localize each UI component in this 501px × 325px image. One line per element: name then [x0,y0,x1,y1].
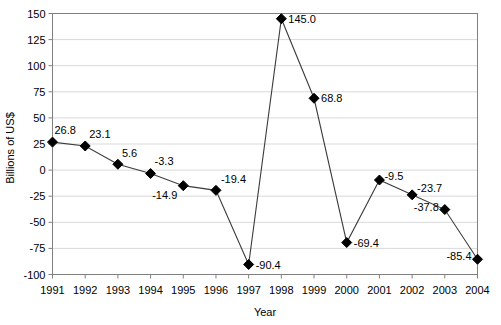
data-point-label: 145.0 [288,13,316,25]
data-point-marker [342,238,352,248]
data-point-marker [80,141,90,151]
y-tick-label: -25 [30,190,46,202]
data-point-marker [473,254,483,264]
y-tick-label: 25 [33,138,45,150]
x-tick-label: 2000 [334,284,358,296]
data-point-marker [244,259,254,269]
x-tick-label: 2001 [367,284,391,296]
data-point-label: -90.4 [256,259,281,271]
y-tick-label: 100 [27,60,45,72]
data-point-label: 68.8 [321,92,342,104]
data-point-label: -3.3 [155,155,174,167]
data-point-label: 5.6 [122,147,137,159]
y-axis-tick-labels: 1501251007550250-25-50-75-100 [23,8,45,281]
data-line [53,19,478,265]
data-point-label: -85.4 [446,250,471,262]
y-tick-label: 150 [27,8,45,20]
data-point-marker [211,185,221,195]
y-axis-title: Billions of US$ [4,112,16,184]
data-point-label: -69.4 [354,237,379,249]
data-point-label: 26.8 [55,124,76,136]
data-point-label: -37.8 [414,201,439,213]
x-tick-label: 1993 [106,284,130,296]
x-tick-label: 2004 [465,284,489,296]
data-point-marker [276,14,286,24]
x-tick-label: 1994 [138,284,162,296]
x-axis-ticks [53,275,478,279]
x-tick-label: 2002 [400,284,424,296]
data-point-label: 23.1 [89,128,110,140]
x-axis-title: Year [254,306,277,318]
y-tick-label: 0 [39,164,45,176]
y-tick-label: 50 [33,112,45,124]
x-tick-label: 1995 [171,284,195,296]
y-tick-label: 125 [27,34,45,46]
data-point-marker [440,205,450,215]
y-tick-label: 75 [33,86,45,98]
x-tick-label: 1996 [204,284,228,296]
data-point-label: -23.7 [417,182,442,194]
line-chart: 1501251007550250-25-50-75-100 1991199219… [0,0,501,325]
data-point-label: -14.9 [152,189,177,201]
x-tick-label: 1999 [302,284,326,296]
data-point-label: -9.5 [384,170,403,182]
x-tick-label: 1998 [269,284,293,296]
data-point-labels: 26.823.15.6-3.3-14.9-19.4-90.4145.068.8-… [55,13,472,272]
x-tick-label: 1991 [40,284,64,296]
chart-page: 1501251007550250-25-50-75-100 1991199219… [0,0,501,325]
y-tick-label: -50 [30,216,46,228]
y-tick-label: -100 [23,269,45,281]
x-tick-label: 1997 [236,284,260,296]
data-point-marker [374,175,384,185]
x-tick-label: 1992 [73,284,97,296]
x-axis-tick-labels: 1991199219931994199519961997199819992000… [40,284,489,296]
data-point-marker [407,190,417,200]
data-point-marker [113,159,123,169]
data-point-label: -19.4 [221,173,246,185]
data-point-marker [178,181,188,191]
data-point-marker [309,93,319,103]
data-point-marker [48,137,58,147]
x-tick-label: 2003 [433,284,457,296]
y-tick-label: -75 [30,242,46,254]
